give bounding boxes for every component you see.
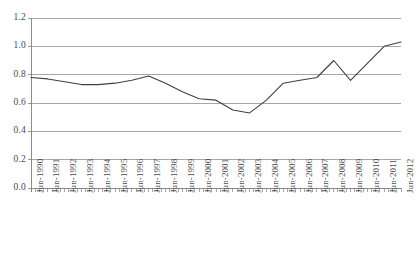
chart-plot-area — [0, 0, 418, 262]
x-axis-tick-label: Jun-2006 — [304, 159, 314, 193]
x-axis-tick-label: Jun-1991 — [51, 159, 61, 193]
x-axis-tick-label: Jun-2007 — [320, 159, 330, 193]
x-axis-tick-label: Jun-1999 — [186, 159, 196, 193]
y-axis-tick-label: 1.2 — [2, 12, 26, 22]
x-axis-tick-label: Jun-2000 — [203, 159, 213, 193]
x-axis-tick-label: Jun-1998 — [169, 159, 179, 193]
x-axis-tick-label: Jun-2010 — [371, 159, 381, 193]
x-axis-tick-label: Jun-1996 — [135, 159, 145, 193]
y-axis-tick-label: 0.0 — [2, 182, 26, 192]
x-axis-tick-label: Jun-2002 — [236, 159, 246, 193]
x-axis-tick-label: Jun-2001 — [220, 159, 230, 193]
x-axis-tick-label: Jun-1993 — [85, 159, 95, 193]
y-axis-tick-label: 0.4 — [2, 125, 26, 135]
x-axis-tick-label: Jun-1990 — [35, 159, 45, 193]
x-axis-tick-label: Jun-1995 — [119, 159, 129, 193]
y-axis-tick-label: 1.0 — [2, 40, 26, 50]
x-axis-tick-label: Jun-2012 — [405, 159, 415, 193]
x-axis-tick-label: Jun-1997 — [152, 159, 162, 193]
y-axis-tick-label: 0.8 — [2, 69, 26, 79]
x-axis-tick-label: Jun-2005 — [287, 159, 297, 193]
data-line — [31, 42, 401, 113]
line-chart: 0.00.20.40.60.81.01.2 Jun-1990Jun-1991Ju… — [0, 0, 418, 262]
x-axis-tick-label: Jun-1994 — [102, 159, 112, 193]
y-axis-tick-label: 0.6 — [2, 97, 26, 107]
y-axis-tick-label: 0.2 — [2, 154, 26, 164]
x-axis-tick-label: Jun-2003 — [253, 159, 263, 193]
x-axis-tick-label: Jun-2011 — [388, 159, 398, 193]
x-axis-tick-label: Jun-1992 — [68, 159, 78, 193]
data-series-line — [31, 42, 401, 113]
x-axis-tick-label: Jun-2009 — [354, 159, 364, 193]
x-axis-tick-label: Jun-2004 — [270, 159, 280, 193]
x-axis-tick-label: Jun-2008 — [337, 159, 347, 193]
